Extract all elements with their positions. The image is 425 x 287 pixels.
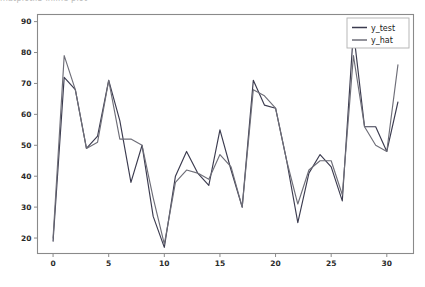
figure-canvas: matplotlib inline plot 2030405060708090 … [0,0,425,287]
x-tick-label: 25 [326,259,336,268]
line-chart: 2030405060708090 051015202530 y_testy_ha… [0,0,425,287]
x-tick-label: 10 [159,259,169,268]
y-tick-label: 70 [21,79,31,88]
legend-label-y-hat: y_hat [371,36,393,45]
data-series-group [53,31,398,247]
axes-frame [38,15,414,254]
y-tick-label: 50 [21,141,31,150]
y-tick-label: 20 [21,234,31,243]
x-tick-label: 15 [215,259,225,268]
x-tick-label: 0 [50,259,55,268]
x-tick-label: 30 [382,259,392,268]
y-tick-label: 60 [21,110,31,119]
legend-label-y-test: y_test [371,24,395,33]
y-tick-label: 90 [21,17,31,26]
legend: y_testy_hat [347,18,409,48]
y-tick-label: 80 [21,48,31,57]
x-tick-label: 5 [106,259,111,268]
x-axis-ticks: 051015202530 [50,254,392,269]
y-tick-label: 40 [21,172,31,181]
y-tick-label: 30 [21,203,31,212]
x-tick-label: 20 [270,259,280,268]
y-axis-ticks: 2030405060708090 [21,17,37,242]
